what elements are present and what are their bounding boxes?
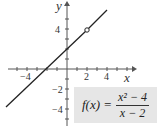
x-tick-label: 2 [84,71,89,82]
fraction: x² − 4 x − 2 [116,90,149,121]
x-tick-label: 4 [104,71,109,82]
denominator: x − 2 [120,106,145,121]
y-tick-label: −2 [52,84,63,95]
x-axis-label: x [123,70,130,85]
x-tick-label: −4 [20,71,31,82]
numerator: x² − 4 [116,90,149,106]
function-lhs: f(x) = [82,97,112,113]
y-axis-label: y [54,0,62,13]
y-tick-label: 4 [55,24,60,35]
hole-marker [85,28,89,32]
chart: −4 2 4 4 −2 −4 x y f(x) = x² − 4 x − 2 [0,0,157,136]
y-tick-label: −4 [52,104,63,115]
function-label-box: f(x) = x² − 4 x − 2 [74,87,157,123]
